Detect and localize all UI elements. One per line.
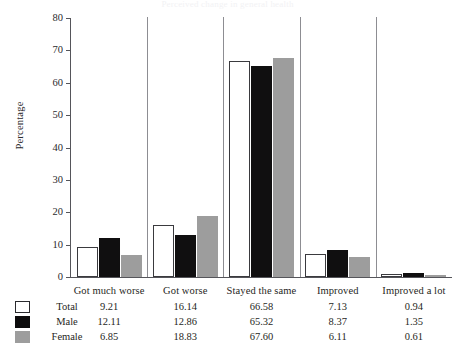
data-cell: 12.86 — [147, 315, 223, 328]
legend-swatch-total — [15, 301, 30, 313]
legend-swatch-male — [15, 316, 30, 328]
group-separator — [376, 17, 377, 277]
bar-male — [403, 273, 424, 277]
bar-female — [121, 255, 142, 277]
bar-male — [251, 66, 272, 277]
bar-total — [153, 225, 174, 277]
legend-row[interactable]: Total9.2116.1466.587.130.94 — [0, 300, 455, 315]
data-cell: 12.11 — [71, 315, 147, 328]
group-separator — [300, 17, 301, 277]
bar-male — [99, 238, 120, 277]
bar-total — [77, 247, 98, 277]
data-cell: 67.60 — [223, 330, 299, 343]
data-cell: 0.94 — [376, 300, 452, 313]
data-cell: 6.11 — [300, 330, 376, 343]
bar-male — [175, 235, 196, 277]
bar-total — [229, 61, 250, 277]
x-axis-category-label: Stayed the same — [223, 285, 299, 296]
bar-series-layer — [0, 17, 455, 277]
data-cell: 0.61 — [376, 330, 452, 343]
bar-female — [197, 216, 218, 277]
data-cell: 9.21 — [71, 300, 147, 313]
data-cell: 65.32 — [223, 315, 299, 328]
data-cell: 18.83 — [147, 330, 223, 343]
bar-total — [305, 254, 326, 277]
legend-data-table: Total9.2116.1466.587.130.94Male12.1112.8… — [0, 300, 455, 360]
group-separator — [223, 17, 224, 277]
legend-row[interactable]: Male12.1112.8665.328.371.35 — [0, 315, 455, 330]
group-separator — [147, 17, 148, 277]
data-cell: 66.58 — [223, 300, 299, 313]
y-axis-tick — [66, 277, 71, 278]
bar-female — [273, 58, 294, 277]
legend-swatch-female — [15, 331, 30, 343]
x-axis-category-label: Improved — [300, 285, 376, 296]
x-axis-category-label: Improved a lot — [376, 285, 452, 296]
bar-total — [381, 274, 402, 277]
x-axis-line — [70, 277, 452, 278]
bar-male — [327, 250, 348, 277]
bar-female — [349, 257, 370, 277]
data-cell: 7.13 — [300, 300, 376, 313]
data-cell: 6.85 — [71, 330, 147, 343]
data-cell: 8.37 — [300, 315, 376, 328]
bar-female — [425, 275, 446, 277]
data-cell: 1.35 — [376, 315, 452, 328]
x-axis-category-label: Got much worse — [71, 285, 147, 296]
data-cell: 16.14 — [147, 300, 223, 313]
legend-row[interactable]: Female6.8518.8367.606.110.61 — [0, 330, 455, 345]
x-axis-category-label: Got worse — [147, 285, 223, 296]
bar-chart-plot-area: Percentage 01020304050607080 Got much wo… — [0, 0, 455, 300]
